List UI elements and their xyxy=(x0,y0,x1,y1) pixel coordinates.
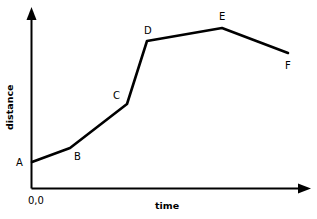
chart-canvas: A B C D E F distance time 0,0 xyxy=(0,0,317,219)
data-series-line xyxy=(32,28,288,162)
x-axis-arrowhead xyxy=(298,184,311,194)
y-axis-title: distance xyxy=(4,84,15,130)
data-point-label-b: B xyxy=(74,152,81,162)
data-point-label-e: E xyxy=(219,12,225,22)
y-axis-arrowhead xyxy=(27,7,37,20)
data-point-label-c: C xyxy=(113,91,120,101)
data-point-label-a: A xyxy=(16,158,23,168)
line-chart-graphic xyxy=(0,0,317,219)
data-point-label-f: F xyxy=(285,61,291,71)
origin-label: 0,0 xyxy=(28,195,44,206)
x-axis-title: time xyxy=(155,200,179,211)
data-point-label-d: D xyxy=(144,26,152,36)
